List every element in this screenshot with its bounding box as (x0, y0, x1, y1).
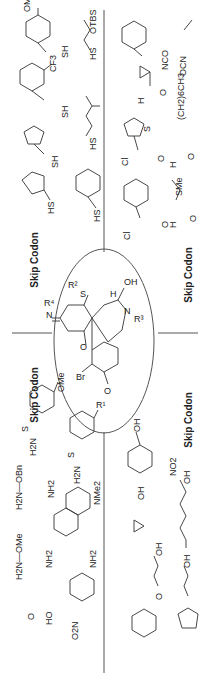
acyl-chloride-cl-label-2: Cl (122, 232, 132, 241)
carboxylic-o-label: O (26, 613, 36, 620)
thiol-omethoxy-label: OMe (22, 0, 32, 12)
benzyloxyamine-label: H2N—OBn (14, 465, 24, 510)
carboxylic-ho-label: HO (44, 612, 54, 626)
quadrant-hydrazines: OMe S H2N S H2N H2N—OBn NH2 NMe2 H2N—OMe… (14, 372, 102, 640)
thiol-hs-label-1: HS (88, 47, 98, 60)
svg-text:Skip Codon: Skip Codon (183, 247, 194, 303)
hydrazine-nh2-label: NH2 (88, 550, 98, 568)
core-r1-label: R¹ (96, 400, 106, 410)
thiol-hs-label-4: HS (92, 209, 102, 222)
core-imine-n-label: N (46, 310, 53, 320)
aldehyde-o-label-1: O (158, 89, 168, 96)
aldehyde-h-label-1: H (136, 98, 146, 105)
dansyl-nh2-label: NH2 (46, 480, 56, 498)
skip-codon-label-bottom-right: Skip Codon (183, 392, 194, 448)
aminooxy-nh2-label: NH2 (44, 550, 54, 568)
aldehyde-o-label-3: O (188, 215, 198, 222)
dimethylamino-label: NMe2 (92, 481, 102, 505)
skip-codon-label-bottom-left: Skip Codon (29, 367, 40, 423)
isocyanate-nco-label: NCO (160, 50, 170, 70)
core-sulfur-label: S (80, 289, 86, 299)
thiol-sh-label-1: SH (60, 45, 70, 58)
sulfonyl-s-label-1: S (20, 426, 30, 432)
core-r2-label: R² (68, 280, 78, 290)
thiol-sh-label-3: SH (50, 155, 60, 168)
svg-text:Skip Codon: Skip Codon (29, 232, 40, 288)
core-r4-label: R⁴ (44, 298, 54, 308)
svg-text:Skip Codon: Skip Codon (29, 367, 40, 423)
sulfonyl-s-label-2: S (66, 452, 76, 458)
quadrant-alcohols: OH NO2 OH OH OH O OH (128, 419, 198, 638)
skip-codon-label-top-right: Skip Codon (183, 247, 194, 303)
core-h-label: H (110, 289, 117, 299)
nitro-no2-label: NO2 (168, 457, 178, 476)
hexenol-oh-label: OH (182, 471, 192, 485)
acyl-chloride-cl-label-1: Cl (120, 158, 130, 167)
core-ether-o-label: O (80, 342, 87, 352)
cyclopentylpropanol-oh-label: OH (182, 555, 192, 569)
hydrazide-h2n-label-1: H2N (28, 438, 38, 456)
nitrobenzyl-oh-label: OH (132, 419, 142, 433)
quadrant-thiols: OMe SH OTBS HS CF3 SH HS SH HS HS (20, 0, 102, 222)
thiophene-s-label: S (142, 126, 152, 132)
library-diagram: Skip Codon Skip Codon Skip Codon Skip Co… (0, 0, 208, 683)
thiol-hs-label-3: HS (46, 201, 56, 214)
core-bromo-label: Br (76, 372, 85, 382)
quadrant-acylating-agents: NCO OCN H O (CH2)6CH3 S Cl O H O SMe H O… (120, 20, 198, 240)
core-hydroxyl-label: OH (124, 277, 138, 287)
acyl-o-label-2: O (160, 221, 170, 228)
thiol-hs-label-2: HS (88, 137, 98, 150)
thiol-otbs-label: OTBS (88, 9, 98, 34)
svg-text:Skip Codon: Skip Codon (183, 392, 194, 448)
thiol-cf3-label: CF3 (48, 55, 58, 72)
core-r3-label: R³ (134, 314, 144, 324)
core-phenol-o-label: O (104, 386, 111, 396)
acyl-o-label-1: O (156, 155, 166, 162)
smethyl-label: SMe (174, 177, 184, 196)
aldehyde-h-label-2: H (168, 162, 178, 169)
hydrazide-h2n-label-2: H2N (72, 466, 82, 484)
core-amine-n-label: N (124, 306, 131, 316)
nitro-o2n-label: O2N (70, 621, 80, 640)
sulfonyl-omethoxy-label: OMe (56, 372, 66, 392)
methoxyamine-label: H2N—OMe (14, 533, 24, 580)
aldehyde-o-label-2: O (186, 153, 196, 160)
cyclopropylmethanol-oh-label: OH (136, 487, 146, 501)
phenoxypropanol-oh-label: OH (154, 543, 164, 557)
thiol-sh-label-2: SH (60, 105, 70, 118)
skip-codon-label-top-left: Skip Codon (29, 232, 40, 288)
phenoxy-o-label: O (154, 593, 164, 600)
octanal-chain-label: (CH2)6CH3 (176, 73, 186, 120)
